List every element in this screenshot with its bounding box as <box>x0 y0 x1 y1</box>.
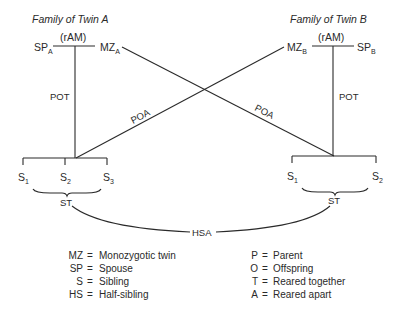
poa-label-left: POA <box>129 106 152 125</box>
svg-text:Reared apart: Reared apart <box>273 289 332 300</box>
svg-text:Reared together: Reared together <box>273 276 346 287</box>
svg-text:Spouse: Spouse <box>99 263 133 274</box>
poa-label-right: POA <box>253 102 276 121</box>
family-a-twin: MZA <box>100 41 120 55</box>
legend-item-p: P = Parent <box>251 250 302 261</box>
svg-text:=: = <box>87 263 93 274</box>
svg-text:SP: SP <box>70 263 84 274</box>
poa-line-a-to-b <box>122 47 334 156</box>
svg-text:=: = <box>87 289 93 300</box>
family-b-sibling-2: S2 <box>372 170 383 184</box>
svg-text:=: = <box>262 263 268 274</box>
family-a-spouse: SPA <box>34 41 53 55</box>
svg-text:Sibling: Sibling <box>99 276 129 287</box>
svg-text:SPB: SPB <box>357 41 376 55</box>
family-a-rAM-label: (rAM) <box>60 31 86 43</box>
svg-text:S1: S1 <box>287 170 298 184</box>
hsa-label: HSA <box>192 227 212 238</box>
legend-left: MZ = Monozygotic twin SP = Spouse S = Si… <box>69 250 176 300</box>
svg-text:HS: HS <box>69 289 83 300</box>
svg-text:MZA: MZA <box>100 41 120 55</box>
legend-item-o: O = Offspring <box>250 263 313 274</box>
svg-text:=: = <box>87 250 93 261</box>
svg-text:MZ: MZ <box>69 250 83 261</box>
legend-item-mz: MZ = Monozygotic twin <box>69 250 176 261</box>
family-b-pot-label: POT <box>339 91 359 102</box>
svg-text:S2: S2 <box>60 171 71 185</box>
legend-item-sp: SP = Spouse <box>70 263 134 274</box>
svg-text:S3: S3 <box>103 171 114 185</box>
svg-text:=: = <box>262 289 268 300</box>
twin-family-diagram: Family of Twin A Family of Twin B SPA (r… <box>0 0 397 317</box>
family-b-sibship-brace <box>302 188 368 195</box>
svg-text:T: T <box>252 276 258 287</box>
legend-right: P = Parent O = Offspring T = Reared toge… <box>250 250 346 300</box>
family-a-sibling-1: S1 <box>18 171 29 185</box>
svg-text:=: = <box>262 276 268 287</box>
svg-text:S1: S1 <box>18 171 29 185</box>
svg-text:P: P <box>251 250 258 261</box>
family-b-spouse: SPB <box>357 41 376 55</box>
family-a-title: Family of Twin A <box>32 13 108 25</box>
svg-text:S: S <box>76 276 83 287</box>
legend-item-s: S = Sibling <box>76 276 129 287</box>
svg-text:Half-sibling: Half-sibling <box>99 289 148 300</box>
family-a-sibling-2: S2 <box>60 171 71 185</box>
svg-text:O: O <box>250 263 258 274</box>
svg-text:A: A <box>251 289 258 300</box>
svg-text:MZB: MZB <box>287 41 307 55</box>
family-b-sibling-1: S1 <box>287 170 298 184</box>
hsa-curve-right <box>216 206 330 232</box>
svg-text:Parent: Parent <box>273 250 303 261</box>
svg-text:Monozygotic twin: Monozygotic twin <box>99 250 176 261</box>
family-a-pot-label: POT <box>50 91 70 102</box>
legend-item-t: T = Reared together <box>252 276 346 287</box>
svg-text:=: = <box>262 250 268 261</box>
svg-text:Offspring: Offspring <box>273 263 313 274</box>
svg-text:=: = <box>87 276 93 287</box>
family-b-rAM-label: (rAM) <box>318 31 344 43</box>
svg-text:S2: S2 <box>372 170 383 184</box>
family-b-sibship-bracket <box>292 156 376 163</box>
legend-item-a: A = Reared apart <box>251 289 331 300</box>
hsa-curve-left <box>72 206 190 232</box>
family-a-sibship-brace <box>33 189 101 196</box>
family-b-st-label: ST <box>328 195 340 206</box>
legend-item-hs: HS = Half-sibling <box>69 289 148 300</box>
family-b-twin: MZB <box>287 41 307 55</box>
family-a-sibship-bracket <box>23 158 107 165</box>
family-a-st-label: ST <box>60 197 72 208</box>
family-b-title: Family of Twin B <box>290 13 367 25</box>
poa-line-b-to-a <box>76 47 284 158</box>
svg-text:SPA: SPA <box>34 41 53 55</box>
family-a-sibling-3: S3 <box>103 171 114 185</box>
